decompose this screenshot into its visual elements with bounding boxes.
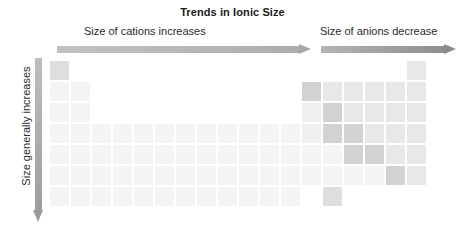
periodic-table-cell [281, 187, 300, 206]
periodic-table-cell [260, 187, 279, 206]
periodic-table-cell [113, 166, 132, 185]
vertical-arrow-icon [33, 58, 44, 222]
periodic-table-cell [71, 124, 90, 143]
periodic-table-cell [134, 187, 153, 206]
cations-arrow-icon [57, 44, 311, 55]
periodic-table-cell [302, 124, 321, 143]
periodic-table-cell [176, 187, 195, 206]
periodic-table-cell [197, 166, 216, 185]
periodic-table-cell [197, 187, 216, 206]
periodic-table-cell [386, 82, 405, 101]
periodic-table-cell [176, 124, 195, 143]
periodic-table-cell [323, 187, 342, 206]
anions-trend-label: Size of anions decrease [320, 25, 437, 37]
periodic-table-cell [365, 82, 384, 101]
page-title: Trends in Ionic Size [0, 6, 465, 18]
periodic-table-cell [134, 166, 153, 185]
vertical-trend-label: Size generally increases [20, 56, 32, 196]
periodic-table-cell [71, 82, 90, 101]
periodic-table-cell [218, 187, 237, 206]
periodic-table-cell [239, 145, 258, 164]
periodic-table-cell [50, 145, 69, 164]
periodic-table-cell [155, 124, 174, 143]
periodic-table-cell [344, 82, 363, 101]
periodic-table-cell [260, 124, 279, 143]
periodic-table-cell [323, 166, 342, 185]
periodic-table-cell [344, 166, 363, 185]
periodic-table-cell [344, 145, 363, 164]
periodic-table-cell [386, 166, 405, 185]
periodic-table-cell [176, 166, 195, 185]
vertical-arrow-shaft [35, 58, 42, 210]
anions-arrow-icon [321, 44, 456, 55]
periodic-table-cell [239, 124, 258, 143]
periodic-table-cell [92, 145, 111, 164]
periodic-table-cell [197, 124, 216, 143]
periodic-table-cell [302, 103, 321, 122]
periodic-table-cell [260, 166, 279, 185]
periodic-table-cell [218, 166, 237, 185]
periodic-table-cell [113, 145, 132, 164]
periodic-table-cell [302, 82, 321, 101]
periodic-table-cell [407, 82, 426, 101]
periodic-table-cell [155, 145, 174, 164]
periodic-table-cell [407, 145, 426, 164]
vertical-arrow-head [33, 210, 43, 222]
cations-arrow-shaft [57, 46, 299, 53]
periodic-table-cell [323, 82, 342, 101]
periodic-table-cell [239, 166, 258, 185]
periodic-table-cell [323, 145, 342, 164]
periodic-table-cell [71, 145, 90, 164]
periodic-table-cell [92, 187, 111, 206]
periodic-table-cell [218, 124, 237, 143]
periodic-table-cell [176, 145, 195, 164]
periodic-table-cell [365, 145, 384, 164]
periodic-table-cell [155, 187, 174, 206]
periodic-table-cell [302, 145, 321, 164]
periodic-table-cell [344, 103, 363, 122]
cations-arrow-head [299, 44, 311, 54]
cations-trend-label: Size of cations increases [84, 25, 206, 37]
periodic-table-cell [92, 166, 111, 185]
periodic-table-cell [365, 103, 384, 122]
periodic-table-cell [134, 145, 153, 164]
periodic-table-cell [323, 124, 342, 143]
periodic-table-cell [71, 166, 90, 185]
periodic-table-cell [155, 166, 174, 185]
periodic-table-cell [386, 103, 405, 122]
periodic-table-cell [281, 145, 300, 164]
periodic-table-cell [407, 166, 426, 185]
periodic-table-cell [344, 124, 363, 143]
periodic-table-cell [281, 166, 300, 185]
periodic-table-cell [281, 124, 300, 143]
periodic-table-cell [386, 145, 405, 164]
periodic-table-cell [407, 103, 426, 122]
periodic-table-cell [50, 82, 69, 101]
periodic-table-cell [407, 124, 426, 143]
periodic-table-cell [71, 103, 90, 122]
periodic-table-cell [239, 187, 258, 206]
periodic-table-cell [113, 187, 132, 206]
ionic-size-trends-figure: Trends in Ionic Size Size of cations inc… [0, 0, 465, 242]
periodic-table-cell [50, 124, 69, 143]
periodic-table-cell [260, 145, 279, 164]
periodic-table-cell [50, 61, 69, 80]
periodic-table-cell [71, 187, 90, 206]
periodic-table-cell [302, 166, 321, 185]
periodic-table-cell [113, 124, 132, 143]
periodic-table-cell [134, 124, 153, 143]
anions-arrow-head [444, 44, 456, 54]
anions-arrow-shaft [321, 46, 444, 53]
periodic-table-cell [386, 124, 405, 143]
periodic-table-cell [365, 166, 384, 185]
periodic-table-cell [407, 61, 426, 80]
periodic-table-cell [50, 187, 69, 206]
periodic-table-cell [218, 145, 237, 164]
periodic-table-cell [50, 103, 69, 122]
periodic-table-cell [323, 103, 342, 122]
periodic-table-cell [197, 145, 216, 164]
periodic-table-cell [50, 166, 69, 185]
periodic-table-cell [365, 124, 384, 143]
periodic-table-cell [92, 124, 111, 143]
